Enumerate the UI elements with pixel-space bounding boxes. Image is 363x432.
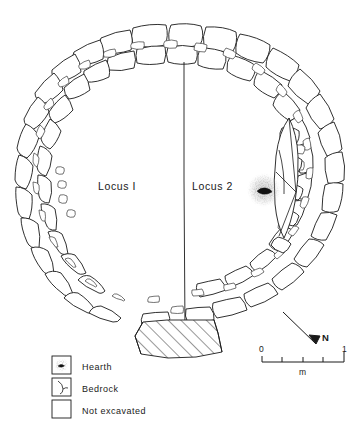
scale-end-label: 1 — [342, 344, 347, 354]
legend-label-bedrock: Bedrock — [82, 384, 119, 394]
legend-swatch-not-excavated — [52, 400, 71, 418]
north-label: N — [322, 332, 329, 343]
scale-start-label: 0 — [259, 344, 264, 354]
locus-1-label: Locus I — [98, 180, 136, 192]
locus-2-label: Locus 2 — [192, 180, 233, 192]
not-excavated-zone — [135, 320, 222, 358]
site-plan-figure: Locus I Locus 2 N 0 1 m Hearth Bed — [0, 0, 363, 432]
legend-label-hearth: Hearth — [82, 362, 112, 372]
scale-unit-label: m — [299, 367, 306, 377]
legend-label-not-excavated: Not excavated — [82, 406, 146, 416]
hearth-feature — [247, 173, 281, 207]
